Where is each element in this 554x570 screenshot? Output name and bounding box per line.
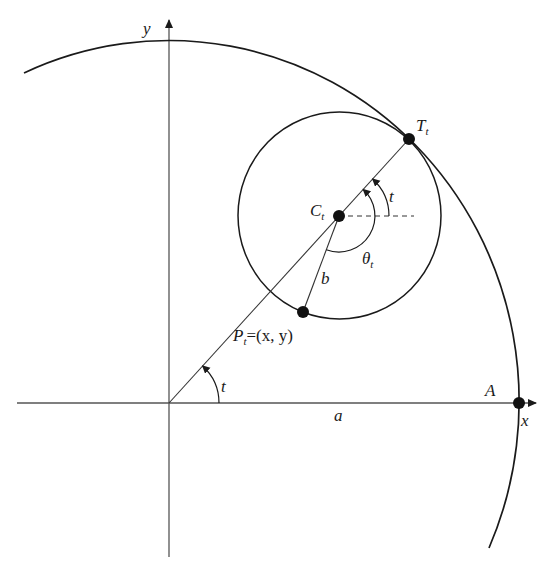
label-t-center: t — [389, 187, 395, 206]
label-A: A — [484, 381, 496, 400]
angle-t-origin-arc — [203, 366, 219, 403]
point-C — [333, 210, 345, 222]
label-C: Ct — [310, 201, 325, 222]
y-axis-label: y — [141, 19, 151, 38]
label-t-origin: t — [221, 377, 227, 396]
segment-b — [303, 216, 339, 312]
label-a: a — [334, 406, 343, 425]
angle-theta-arc — [326, 189, 375, 252]
diagram: y x Tt Ct t θt b Pt=(x, y) t a A — [0, 0, 554, 570]
x-axis-label: x — [520, 411, 529, 430]
label-theta: θt — [362, 249, 374, 270]
label-T: Tt — [416, 116, 429, 137]
point-P — [297, 306, 309, 318]
point-T — [403, 133, 415, 145]
point-A — [513, 397, 525, 409]
label-P: Pt=(x, y) — [232, 326, 293, 347]
outer-curve — [24, 41, 519, 548]
label-b: b — [321, 269, 330, 288]
